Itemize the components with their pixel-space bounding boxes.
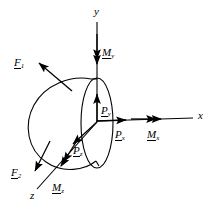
moment-mz-symbol: M — [52, 181, 61, 194]
force-py-symbol: P — [101, 104, 108, 117]
force-label-py: Py — [101, 101, 111, 118]
figure-canvas: y x z F1 F2 Px Py Pz Mx My Mz — [0, 0, 216, 212]
force-px-arrow — [97, 120, 126, 121]
force-px-symbol: P — [115, 128, 122, 141]
force-label-px: Px — [115, 125, 125, 142]
moment-my-symbol: M — [102, 46, 111, 59]
moment-mz-subscript: z — [61, 187, 64, 195]
axis-label-z: z — [30, 190, 34, 201]
moment-mx-symbol: M — [147, 128, 156, 141]
force-f2-subscript: 2 — [18, 172, 22, 180]
force-label-f2: F2 — [11, 163, 21, 180]
moment-mx-subscript: x — [156, 134, 159, 142]
force-f1-symbol: F — [14, 56, 21, 69]
force-pz-symbol: P — [73, 144, 80, 157]
force-f2-symbol: F — [11, 166, 18, 179]
force-pz-subscript: z — [80, 150, 83, 158]
force-label-pz: Pz — [73, 141, 82, 158]
axis-label-x: x — [198, 110, 203, 121]
moment-label-my: My — [102, 43, 114, 60]
moment-my-subscript: y — [111, 52, 114, 60]
moment-label-mx: Mx — [147, 125, 159, 142]
force-py-subscript: y — [108, 110, 111, 118]
force-f1-subscript: 1 — [21, 62, 25, 70]
force-px-subscript: x — [122, 134, 125, 142]
axis-label-y: y — [94, 6, 99, 17]
rigid-body — [28, 78, 113, 169]
moment-label-mz: Mz — [52, 178, 64, 195]
force-label-f1: F1 — [14, 53, 24, 70]
